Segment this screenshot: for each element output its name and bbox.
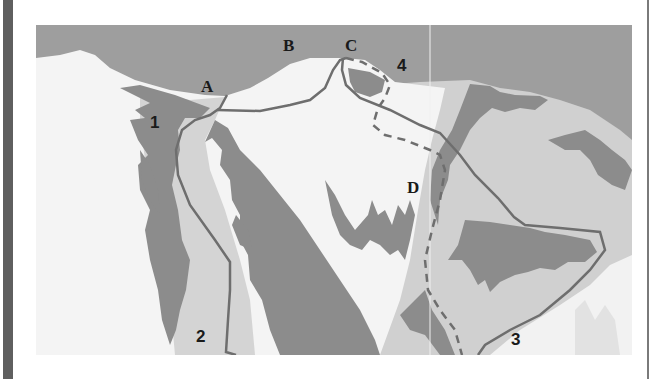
point-label-a: A: [201, 77, 214, 96]
point-label-d: D: [407, 178, 419, 197]
route-label-3: 3: [511, 330, 520, 349]
mountain-diagram: A B C D 1 2 3 4: [0, 0, 650, 379]
route-label-1: 1: [150, 113, 159, 132]
point-label-c: C: [345, 36, 357, 55]
route-label-4: 4: [397, 56, 407, 75]
point-label-b: B: [283, 36, 294, 55]
route-label-2: 2: [196, 327, 205, 346]
